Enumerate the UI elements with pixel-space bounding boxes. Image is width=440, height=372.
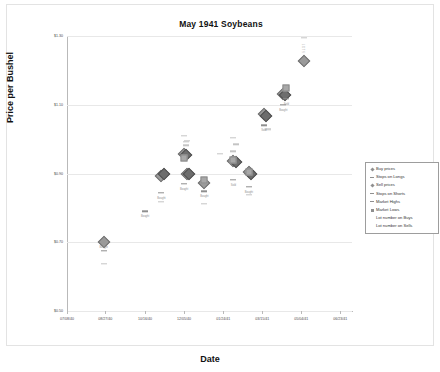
data-point [233, 144, 239, 145]
chart-title: May 1941 Soybeans [7, 19, 435, 29]
legend-marker-icon [368, 226, 376, 227]
data-point [158, 201, 164, 202]
data-point [201, 177, 208, 184]
x-tick-mark [262, 311, 263, 314]
data-point [101, 250, 107, 251]
legend-item: Buy prices [368, 165, 436, 173]
x-tick-mark [184, 311, 185, 314]
x-tick-mark [301, 311, 302, 314]
x-tick-mark [67, 311, 68, 314]
x-tick-label: 07/08/40 [60, 317, 74, 321]
data-point [181, 155, 188, 162]
legend-item: Market Highs [368, 198, 436, 206]
legend-marker-icon [368, 177, 376, 178]
legend-item-label: Stops on Longs [376, 175, 404, 179]
x-tick-label: 06/23/41 [333, 317, 347, 321]
point-annotation: Bought [200, 195, 208, 198]
lot-number-label: L O T S [301, 44, 304, 53]
legend-item-label: Market Highs [376, 200, 400, 204]
legend-item-label: Market Lows [376, 208, 399, 212]
data-point [245, 168, 252, 175]
legend-item: Stops on Longs [368, 173, 436, 181]
legend-marker-icon [368, 168, 376, 171]
y-tick-label: $0.70 [54, 240, 63, 244]
legend-marker-icon [368, 218, 376, 219]
x-tick-mark [340, 311, 341, 314]
y-tick-label: $0.50 [54, 309, 63, 313]
data-point [201, 203, 207, 204]
plot-area: $0.50$0.70$0.90$1.10$1.3007/08/4008/27/4… [67, 36, 352, 311]
point-annotation: Bought [141, 215, 149, 218]
gridline-y [67, 36, 352, 37]
x-tick-mark [223, 311, 224, 314]
legend-marker-icon [368, 193, 376, 194]
x-tick-label: 01/24/41 [216, 317, 230, 321]
data-point [183, 141, 189, 142]
data-point [246, 186, 252, 187]
x-tick-label: 12/05/40 [177, 317, 191, 321]
data-point [261, 125, 267, 126]
x-tick-label: 05/04/41 [294, 317, 308, 321]
legend-item-label: Buy prices [376, 167, 395, 171]
legend-item-label: Stops on Shorts [376, 192, 405, 196]
data-point [158, 192, 164, 193]
legend-item: Lot number on Sells [368, 222, 436, 230]
data-point [181, 183, 187, 184]
data-point [181, 135, 187, 136]
data-point [201, 191, 207, 192]
x-tick-label: 10/16/40 [138, 317, 152, 321]
legend-marker-icon [368, 201, 376, 202]
legend-item-label: Sell prices [376, 183, 395, 187]
legend-item: Sell prices [368, 181, 436, 189]
legend-marker-icon [368, 184, 376, 187]
legend-marker-icon [368, 209, 376, 212]
data-point [183, 145, 189, 146]
gridline-y [67, 311, 352, 312]
data-point [283, 98, 289, 99]
x-tick-label: 08/27/40 [98, 317, 112, 321]
data-point [297, 54, 310, 67]
point-annotation: Bought [180, 188, 188, 191]
data-point [246, 194, 252, 195]
point-annotation: Sold [261, 129, 266, 132]
legend-item-label: Lot number on Sells [376, 224, 412, 228]
data-point [217, 153, 223, 154]
data-point [301, 37, 307, 38]
legend-item: Lot number on Buys [368, 214, 436, 222]
legend-item: Market Lows [368, 206, 436, 214]
point-annotation: Bought [245, 191, 253, 194]
point-annotation: Sold [231, 184, 236, 187]
x-tick-mark [145, 311, 146, 314]
data-point [230, 156, 237, 163]
chart-frame: May 1941 Soybeans Price per Bushel $0.50… [6, 4, 434, 346]
y-tick-label: $1.10 [54, 103, 63, 107]
y-tick-label: $0.90 [54, 172, 63, 176]
x-tick-label: 03/15/41 [255, 317, 269, 321]
data-point [101, 263, 107, 264]
chart-legend: Buy pricesStops on LongsSell pricesStops… [365, 162, 439, 234]
y-tick-label: $1.30 [54, 34, 63, 38]
chart-screenshot: May 1941 Soybeans Price per Bushel $0.50… [0, 0, 440, 372]
gridline-y [67, 174, 352, 175]
data-point [283, 85, 290, 92]
point-annotation: Bought [279, 109, 287, 112]
point-annotation: Sold [284, 103, 289, 106]
legend-item: Stops on Shorts [368, 190, 436, 198]
legend-item-label: Lot number on Buys [376, 216, 413, 220]
x-tick-mark [105, 311, 106, 314]
point-annotation: Bought [157, 197, 165, 200]
data-point [230, 150, 236, 151]
data-point [142, 211, 148, 212]
data-point [230, 179, 236, 180]
point-annotation: Bought [100, 246, 108, 249]
x-axis-title: Date [67, 354, 353, 364]
gridline-y [67, 105, 352, 106]
data-point [230, 137, 236, 138]
y-axis-title: Price per Bushel [5, 52, 15, 123]
